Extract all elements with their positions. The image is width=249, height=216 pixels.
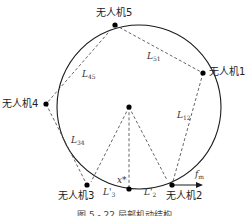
node-center — [126, 104, 131, 109]
edge-center-uav2 — [129, 107, 167, 180]
formation-circle — [57, 25, 221, 189]
label-target: x* — [117, 176, 127, 185]
edge-center-uav3 — [91, 107, 129, 182]
node-uav3 — [84, 182, 89, 187]
figure-caption: 图 5 - 22 局部机动结构 — [0, 208, 249, 216]
label-uav4: 无人机4 — [2, 99, 38, 109]
force-arrowhead-icon — [196, 182, 203, 188]
label-l51: L51 — [147, 52, 161, 62]
formation-diagram: 无人机5 无人机1 无人机4 无人机3 无人机2 L51 L45 L12 L34… — [0, 0, 249, 216]
label-l34: L34 — [71, 136, 85, 146]
label-l12: L12 — [177, 111, 191, 121]
label-l3prime: L'3 — [103, 188, 115, 198]
node-uav4 — [43, 101, 48, 106]
label-l2prime: L'2 — [144, 188, 156, 198]
node-uav5 — [112, 22, 117, 27]
node-target — [126, 186, 131, 191]
edge-l12 — [172, 73, 203, 185]
label-uav2: 无人机2 — [166, 191, 202, 201]
node-uav2 — [169, 182, 174, 187]
label-l45: L45 — [82, 70, 96, 80]
label-force: fm — [195, 170, 204, 180]
label-uav1: 无人机1 — [209, 67, 245, 77]
edge-l45 — [46, 25, 115, 104]
edge-l51 — [115, 25, 203, 73]
label-uav3: 无人机3 — [58, 191, 94, 201]
label-uav5: 无人机5 — [96, 8, 132, 18]
node-uav1 — [200, 70, 205, 75]
